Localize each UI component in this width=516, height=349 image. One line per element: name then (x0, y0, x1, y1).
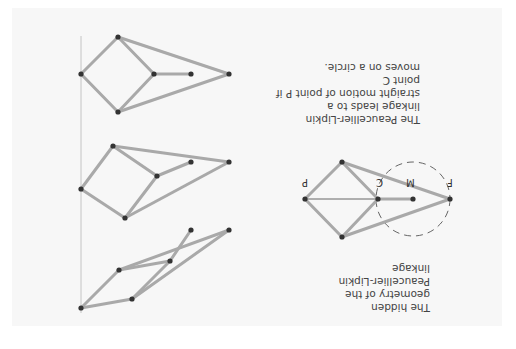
caption-hidden-geometry: The hidden geometry of the Peaucellier-L… (325, 262, 430, 314)
joints-state-1 (78, 34, 231, 114)
joints-state-3 (78, 227, 231, 310)
linkage-state-2 (81, 146, 229, 218)
label-P: P (302, 177, 308, 187)
caption-main: The Peaucellier-Lipkin linkage leads to … (268, 61, 420, 126)
joints-state-2 (78, 143, 231, 220)
linkage-figure (0, 0, 516, 349)
label-C: C (376, 177, 383, 187)
linkage-state-3 (81, 230, 229, 308)
label-M: M (406, 177, 415, 187)
label-F: F (447, 177, 453, 187)
